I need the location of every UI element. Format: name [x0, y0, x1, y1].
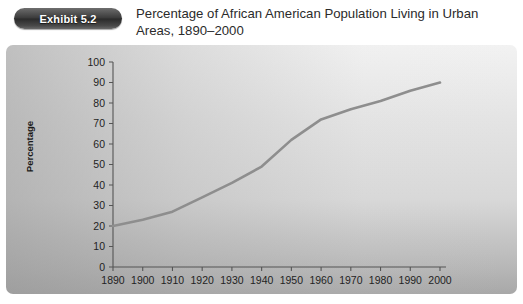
svg-text:80: 80 — [93, 97, 105, 109]
svg-text:1940: 1940 — [250, 274, 274, 286]
svg-text:1890: 1890 — [101, 274, 125, 286]
svg-text:10: 10 — [93, 240, 105, 252]
exhibit-figure: Exhibit 5.2 Percentage of African Americ… — [0, 0, 523, 304]
exhibit-badge: Exhibit 5.2 — [14, 8, 122, 29]
svg-text:1960: 1960 — [309, 274, 333, 286]
svg-text:0: 0 — [99, 261, 105, 273]
chart-panel: Percentage 01020304050607080901001890190… — [6, 45, 517, 294]
figure-header: Exhibit 5.2 Percentage of African Americ… — [0, 0, 523, 45]
svg-text:1900: 1900 — [131, 274, 155, 286]
svg-text:1970: 1970 — [339, 274, 363, 286]
svg-text:40: 40 — [93, 179, 105, 191]
svg-text:1910: 1910 — [161, 274, 185, 286]
svg-text:60: 60 — [93, 138, 105, 150]
svg-text:50: 50 — [93, 158, 105, 170]
svg-text:100: 100 — [87, 56, 105, 68]
svg-text:70: 70 — [93, 117, 105, 129]
svg-text:90: 90 — [93, 76, 105, 88]
svg-text:20: 20 — [93, 220, 105, 232]
line-chart-plot: 0102030405060708090100189019001910192019… — [6, 45, 517, 294]
svg-text:30: 30 — [93, 199, 105, 211]
svg-text:1950: 1950 — [280, 274, 304, 286]
svg-text:1930: 1930 — [220, 274, 244, 286]
svg-text:1990: 1990 — [399, 274, 423, 286]
exhibit-badge-label: Exhibit 5.2 — [39, 13, 96, 25]
svg-text:1980: 1980 — [369, 274, 393, 286]
data-series-line — [113, 83, 440, 227]
svg-text:2000: 2000 — [428, 274, 452, 286]
svg-text:1920: 1920 — [191, 274, 215, 286]
chart-title: Percentage of African American Populatio… — [136, 5, 506, 39]
